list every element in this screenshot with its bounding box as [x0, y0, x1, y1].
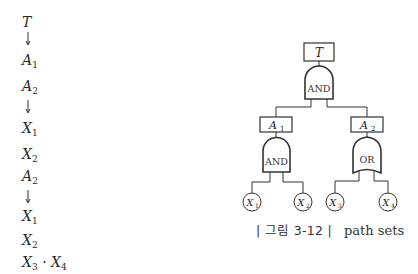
- svg-text:X: X: [246, 197, 255, 208]
- svg-text:2: 2: [306, 202, 310, 209]
- svg-text:X: X: [382, 197, 391, 208]
- basic-event-X1: X 1: [243, 193, 261, 211]
- figure-number: | 그림 3-12 |: [256, 223, 332, 238]
- top-and-gate-label: AND: [307, 83, 331, 94]
- intermediate-event-A1: A 1: [260, 117, 292, 133]
- figure-title: path sets: [344, 223, 404, 238]
- svg-text:2: 2: [371, 125, 375, 133]
- svg-text:3: 3: [338, 202, 342, 209]
- svg-text:T: T: [315, 46, 324, 60]
- svg-text:1: 1: [255, 202, 259, 209]
- svg-text:A: A: [268, 119, 277, 132]
- a1-and-gate-label: AND: [264, 156, 288, 167]
- basic-event-X4: X 4: [379, 193, 397, 211]
- top-event-box: T: [304, 43, 334, 61]
- svg-text:1: 1: [280, 125, 284, 133]
- svg-text:X: X: [329, 197, 338, 208]
- svg-text:4: 4: [391, 202, 395, 209]
- basic-event-X3: X 3: [326, 193, 344, 211]
- basic-event-X2: X 2: [294, 193, 312, 211]
- svg-text:A: A: [359, 119, 368, 132]
- a2-or-gate-label: OR: [360, 154, 376, 165]
- figure-caption: | 그림 3-12 |path sets: [256, 220, 404, 239]
- intermediate-event-A2: A 2: [351, 117, 383, 133]
- svg-text:X: X: [297, 197, 306, 208]
